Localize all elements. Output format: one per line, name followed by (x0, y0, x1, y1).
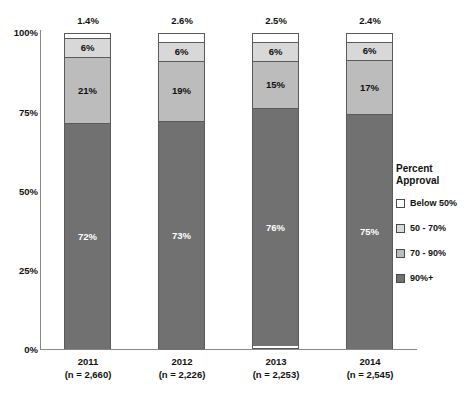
segment-label: 19% (172, 86, 191, 96)
bar-group-2011: 1.4% 6% 21% 72% (41, 33, 135, 349)
legend: Percent Approval Below 50% 50 - 70% 70 -… (396, 163, 468, 298)
segment-label: 21% (78, 86, 97, 96)
segment-50-70[interactable]: 6% (65, 38, 110, 57)
legend-item-90-plus[interactable]: 90%+ (396, 273, 468, 283)
segment-50-70[interactable]: 6% (347, 42, 392, 61)
x-category-year: 2012 (171, 356, 192, 367)
segment-50-70[interactable]: 6% (253, 42, 298, 61)
x-category-sample-size: (n = 2,226) (135, 368, 229, 381)
y-tick-0: 0% (4, 345, 38, 355)
segment-label: 75% (360, 227, 379, 237)
bar-top-label: 1.4% (41, 16, 135, 26)
segment-70-90[interactable]: 15% (253, 61, 298, 108)
segment-label: 6% (81, 43, 95, 53)
legend-item-label: 70 - 90% (410, 248, 446, 258)
bar-top-label: 2.6% (135, 16, 229, 26)
segment-below-50[interactable] (159, 34, 204, 42)
segment-below-50[interactable] (253, 34, 298, 42)
x-category-2013: 2013 (n = 2,253) (229, 355, 323, 381)
segment-label: 15% (266, 80, 285, 90)
segment-90-plus[interactable]: 72% (65, 123, 110, 349)
y-tick-100: 100% (4, 28, 38, 38)
legend-item-70-90[interactable]: 70 - 90% (396, 248, 468, 258)
segment-90-plus[interactable]: 75% (347, 114, 392, 350)
stacked-bar[interactable]: 6% 19% 73% (158, 33, 205, 349)
stacked-bar[interactable]: 6% 21% 72% (64, 33, 111, 349)
legend-item-label: 50 - 70% (410, 223, 446, 233)
legend-title-line1: Percent (396, 163, 468, 175)
segment-label: 6% (269, 47, 283, 57)
y-tick-75: 75% (4, 108, 38, 118)
legend-item-50-70[interactable]: 50 - 70% (396, 223, 468, 233)
stacked-bar[interactable]: 6% 17% 75% (346, 33, 393, 349)
segment-below-50[interactable] (347, 34, 392, 42)
plot-area: 1.4% 6% 21% 72% 2.6% 6% 19% 73% 2.5% 6% (41, 33, 417, 349)
x-category-sample-size: (n = 2,545) (323, 368, 417, 381)
segment-label: 6% (363, 46, 377, 56)
bar-top-label: 2.4% (323, 16, 417, 26)
x-category-year: 2014 (359, 356, 380, 367)
segment-70-90[interactable]: 21% (65, 57, 110, 123)
stacked-bar[interactable]: 6% 15% 76% (252, 33, 299, 349)
legend-item-label: 90%+ (410, 273, 433, 283)
x-category-sample-size: (n = 2,660) (41, 368, 135, 381)
x-category-year: 2013 (265, 356, 286, 367)
segment-label: 73% (172, 231, 191, 241)
legend-item-below-50[interactable]: Below 50% (396, 198, 468, 208)
y-tick-50: 50% (4, 187, 38, 197)
legend-swatch-icon (396, 224, 405, 233)
legend-title: Percent Approval (396, 163, 468, 187)
bar-group-2013: 2.5% 6% 15% 76% (229, 33, 323, 349)
segment-70-90[interactable]: 17% (347, 60, 392, 113)
legend-swatch-icon (396, 199, 405, 208)
x-category-sample-size: (n = 2,253) (229, 368, 323, 381)
legend-swatch-icon (396, 274, 405, 283)
segment-label: 76% (266, 223, 285, 233)
bar-group-2012: 2.6% 6% 19% 73% (135, 33, 229, 349)
segment-50-70[interactable]: 6% (159, 42, 204, 61)
segment-label: 6% (175, 47, 189, 57)
legend-title-line2: Approval (396, 175, 468, 187)
segment-label: 17% (360, 83, 379, 93)
segment-label: 72% (78, 232, 97, 242)
segment-90-plus[interactable]: 76% (253, 108, 298, 347)
segment-90-plus[interactable]: 73% (159, 121, 204, 350)
x-category-2014: 2014 (n = 2,545) (323, 355, 417, 381)
x-category-2011: 2011 (n = 2,660) (41, 355, 135, 381)
x-category-2012: 2012 (n = 2,226) (135, 355, 229, 381)
legend-swatch-icon (396, 249, 405, 258)
x-category-year: 2011 (78, 356, 99, 367)
y-tick-25: 25% (4, 266, 38, 276)
legend-item-label: Below 50% (410, 198, 457, 208)
bar-top-label: 2.5% (229, 16, 323, 26)
segment-70-90[interactable]: 19% (159, 61, 204, 121)
y-axis-tick-labels: 100% 75% 50% 25% 0% (0, 0, 38, 396)
stacked-bar-chart: 100% 75% 50% 25% 0% 1.4% 6% 21% 72% 2.6%… (0, 0, 468, 396)
